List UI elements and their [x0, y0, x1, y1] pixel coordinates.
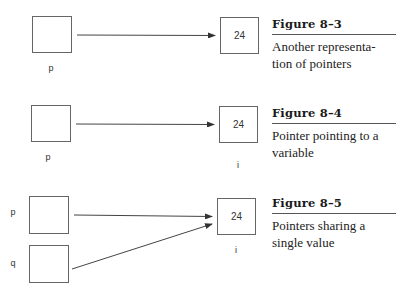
target-value: 24	[233, 119, 245, 130]
figure-title: Figure 8–3	[272, 17, 396, 35]
caption-line: Another representa-	[272, 38, 396, 55]
figure-8-4-caption: Figure 8–4 Pointer pointing to a variabl…	[272, 106, 396, 161]
pointer-arrow-q	[72, 224, 212, 269]
target-value: 24	[231, 211, 243, 222]
caption-line: variable	[272, 144, 396, 161]
pointer-label-p: p	[48, 63, 53, 73]
pointer-label-p: p	[10, 207, 15, 217]
figure-8-5-diagram: p q 24 i	[10, 197, 255, 283]
pointer-box-p	[32, 106, 71, 142]
caption-line: single value	[272, 234, 396, 251]
caption-line: tion of pointers	[272, 55, 396, 72]
pointer-arrow	[77, 35, 215, 36]
pointer-label-p: p	[45, 152, 50, 162]
figure-8-3-diagram: p 24	[33, 17, 259, 74]
pointer-box-q	[30, 246, 69, 283]
figure-title: Figure 8–4	[272, 106, 396, 124]
caption-line: Pointer pointing to a	[272, 127, 396, 144]
pointer-arrow-p	[74, 215, 212, 217]
figure-title: Figure 8–5	[272, 196, 396, 214]
pointer-box-p	[33, 17, 72, 53]
target-label-i: i	[237, 160, 239, 170]
figure-8-3-caption: Figure 8–3 Another representa- tion of p…	[272, 17, 396, 72]
figure-description: Another representa- tion of pointers	[272, 38, 396, 72]
pointer-box-p	[30, 197, 69, 234]
figure-description: Pointers sharing a single value	[272, 217, 396, 251]
figure-8-4-diagram: p 24 i	[32, 106, 258, 171]
target-value: 24	[234, 30, 246, 41]
target-label-i: i	[235, 245, 237, 255]
figure-8-5-caption: Figure 8–5 Pointers sharing a single val…	[272, 196, 396, 251]
pointer-arrow	[76, 124, 214, 125]
caption-line: Pointers sharing a	[272, 217, 396, 234]
pointer-label-q: q	[10, 258, 15, 268]
figure-description: Pointer pointing to a variable	[272, 127, 396, 161]
